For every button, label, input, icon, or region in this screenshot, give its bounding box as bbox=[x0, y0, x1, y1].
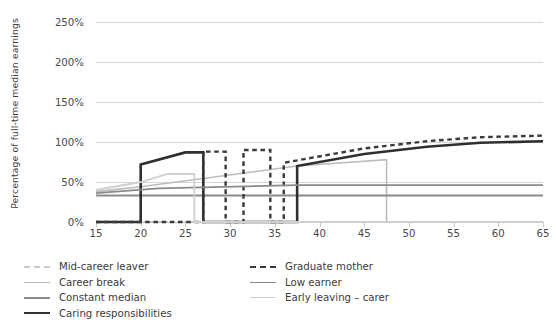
legend-item[interactable]: Constant median bbox=[24, 290, 146, 305]
x-axis-tick-label: 15 bbox=[90, 228, 103, 239]
y-axis-tick-label: 50% bbox=[61, 177, 84, 188]
x-axis-tick-label: 45 bbox=[358, 228, 371, 239]
legend-swatch-icon bbox=[250, 297, 276, 298]
x-axis-tick-label: 65 bbox=[537, 228, 550, 239]
legend-swatch-icon bbox=[250, 282, 276, 283]
x-axis-tick-label: 25 bbox=[179, 228, 192, 239]
x-axis-tick-label: 60 bbox=[492, 228, 505, 239]
x-axis-tick-label: 50 bbox=[402, 228, 415, 239]
chart-legend: Mid-career leaverCareer breakConstant me… bbox=[24, 259, 544, 321]
plot-area bbox=[96, 22, 543, 222]
y-axis-tick-label: 200% bbox=[55, 57, 84, 68]
legend-swatch-icon bbox=[24, 282, 50, 283]
legend-swatch-icon bbox=[250, 266, 276, 268]
legend-item[interactable]: Graduate mother bbox=[250, 259, 373, 274]
x-axis-tick-label: 30 bbox=[224, 228, 237, 239]
legend-item[interactable]: Career break bbox=[24, 275, 125, 290]
series-line bbox=[96, 160, 543, 222]
x-axis-tick-label: 20 bbox=[134, 228, 147, 239]
legend-label: Low earner bbox=[285, 275, 342, 290]
legend-label: Graduate mother bbox=[285, 259, 373, 274]
legend-label: Career break bbox=[59, 275, 125, 290]
legend-swatch-icon bbox=[24, 266, 50, 268]
legend-swatch-icon bbox=[24, 297, 50, 299]
series-line bbox=[96, 185, 543, 193]
legend-label: Mid-career leaver bbox=[59, 259, 148, 274]
legend-item[interactable]: Early leaving – carer bbox=[250, 290, 389, 305]
y-axis-tick-label: 250% bbox=[55, 17, 84, 28]
y-axis-tick-label: 100% bbox=[55, 137, 84, 148]
legend-item[interactable]: Low earner bbox=[250, 275, 342, 290]
y-axis-tick-labels: 0%50%100%150%200%250% bbox=[0, 0, 92, 222]
x-axis-tick-label: 40 bbox=[313, 228, 326, 239]
x-axis-tick-label: 55 bbox=[447, 228, 460, 239]
legend-label: Early leaving – carer bbox=[285, 290, 389, 305]
x-axis-tick-label: 35 bbox=[268, 228, 281, 239]
y-axis-tick-label: 150% bbox=[55, 97, 84, 108]
series-line bbox=[96, 174, 543, 222]
chart-figure: Percentage of full-time median earnings … bbox=[0, 0, 556, 324]
series-lines bbox=[96, 22, 543, 222]
series-line bbox=[96, 136, 543, 222]
legend-item[interactable]: Caring responsibilities bbox=[24, 306, 172, 321]
y-axis-tick-label: 0% bbox=[68, 217, 84, 228]
legend-item[interactable]: Mid-career leaver bbox=[24, 259, 148, 274]
series-line bbox=[96, 141, 543, 222]
x-axis-tick bbox=[543, 222, 544, 227]
legend-label: Constant median bbox=[59, 290, 146, 305]
legend-swatch-icon bbox=[24, 312, 50, 314]
legend-label: Caring responsibilities bbox=[59, 306, 172, 321]
